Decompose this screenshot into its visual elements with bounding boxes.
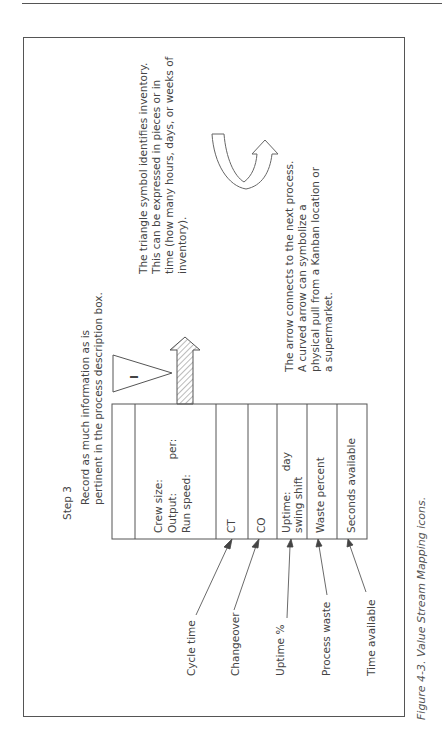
curved-pull-arrow-icon	[212, 134, 278, 189]
process-ct: CT	[225, 519, 238, 533]
process-seconds-available: Seconds available	[345, 438, 358, 533]
process-crew-size: Crew size:	[152, 479, 165, 533]
callout-process-waste: Process waste	[320, 602, 333, 676]
instruction-line-2: pertinent in the process description box…	[92, 292, 105, 505]
process-box-outline	[112, 404, 367, 539]
inventory-desc-line-2: This can be expressed in pieces or in	[150, 80, 163, 274]
process-output: Output: per:	[166, 439, 179, 533]
process-swing-shift: swing shift	[292, 477, 305, 533]
callout-uptime: Uptime %	[274, 625, 287, 676]
process-run-speed: Run speed:	[180, 474, 193, 533]
inventory-triangle-icon	[113, 355, 172, 392]
arrow-desc-line-1: The arrow connects to the next process.	[283, 161, 296, 372]
instruction-line-1: Record as much information as is	[79, 330, 92, 505]
push-arrow-icon	[170, 337, 200, 404]
callout-cycle-time: Cycle time	[185, 620, 198, 676]
arrow-desc-line-3: physical pull from a Kanban location or	[309, 167, 322, 372]
inventory-desc-line-3: time (how many hours, days, or weeks of	[163, 57, 176, 274]
process-waste-percent: Waste percent	[314, 457, 327, 533]
step-label: Step 3	[61, 486, 74, 520]
callout-time-available: Time available	[365, 600, 378, 676]
figure-caption: Figure 4-3. Value Stream Mapping icons.	[415, 497, 428, 720]
process-co: CO	[255, 517, 268, 533]
inventory-symbol-letter: I	[128, 375, 141, 379]
arrow-desc-line-2: A curved arrow can symbolize a	[296, 204, 309, 372]
arrow-desc-line-4: a supermarket.	[322, 292, 335, 372]
inventory-desc-line-1: The triangle symbol identifies inventory…	[137, 63, 150, 274]
callout-changeover: Changeover	[229, 612, 242, 676]
callout-leaders	[196, 539, 366, 618]
inventory-desc-line-4: inventory).	[176, 217, 189, 274]
